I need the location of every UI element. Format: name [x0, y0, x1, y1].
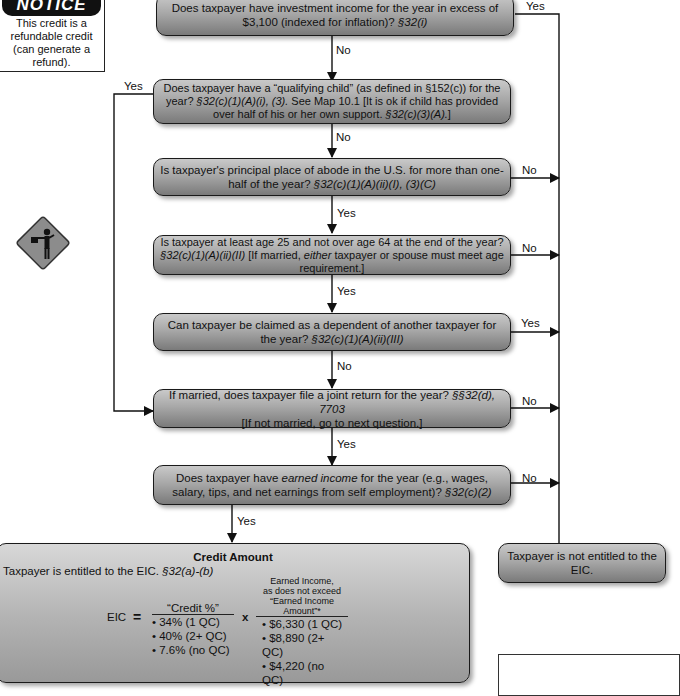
q2-no-label: No — [336, 131, 351, 143]
credit-percent-item: • 34% (1 QC) — [152, 615, 234, 629]
credit-amount-citation: §32(a)-(b) — [162, 565, 213, 577]
question-earned-income: Does taxpayer have earned income for the… — [153, 465, 511, 505]
empty-box — [498, 654, 680, 696]
notice-heading: NOTICE — [2, 0, 101, 16]
question-text: Is taxpayer at least age 25 and not over… — [160, 236, 503, 248]
emphasis: either — [304, 249, 332, 261]
earned-amount-item: • $4,220 (no QC) — [256, 659, 348, 687]
credit-percent-item: • 40% (2+ QC) — [152, 629, 234, 643]
earned-amount-item: • $6,330 (1 QC) — [256, 617, 348, 631]
q4-yes-label: Yes — [337, 285, 356, 297]
q5-no-label: No — [337, 360, 352, 372]
question-age-requirement: Is taxpayer at least age 25 and not over… — [153, 235, 511, 275]
flagger-warning-sign-icon — [14, 214, 72, 272]
question-qualifying-child: Does taxpayer have a “qualifying child” … — [153, 79, 511, 124]
notice-text: This credit is a refundable credit (can … — [0, 17, 104, 69]
citation: §32(c)(1)(A)(ii)(I), (3)(C) — [314, 178, 436, 190]
q7-yes-label: Yes — [237, 515, 256, 527]
q3-no-label: No — [522, 164, 537, 176]
citation: §32(i) — [398, 16, 427, 28]
question-dependent: Can taxpayer be claimed as a dependent o… — [153, 313, 511, 351]
question-text: Does taxpayer have — [176, 472, 278, 484]
q4-no-label: No — [522, 242, 537, 254]
credit-amount-subtitle: Taxpayer is entitled to the EIC. — [3, 565, 159, 577]
earned-amount-item: • $8,890 (2+ QC) — [256, 631, 348, 659]
question-text: If married, does taxpayer file a joint r… — [169, 389, 449, 401]
result-credit-amount: Credit Amount Taxpayer is entitled to th… — [0, 543, 470, 683]
q2-yes-label: Yes — [124, 80, 143, 92]
bracket-close: ] — [448, 108, 451, 120]
result-not-entitled: Taxpayer is not entitled to the EIC. — [498, 543, 666, 583]
q1-yes-label: Yes — [526, 0, 545, 12]
formula-equals: = — [133, 609, 141, 625]
question-investment-income: Does taxpayer have investment income for… — [156, 0, 514, 36]
citation: §32(c)(1)(A)(ii)(III) — [312, 333, 404, 345]
question-note: [If not married, go to next question.] — [242, 417, 423, 429]
notice-box: NOTICE This credit is a refundable credi… — [0, 0, 105, 72]
earned-header-line3: “Earned Income Amount”* — [256, 596, 348, 617]
q5-yes-label: Yes — [521, 317, 540, 329]
earned-income-column: Earned Income, as does not exceed “Earne… — [256, 576, 348, 687]
credit-percent-column: “Credit %” • 34% (1 QC) • 40% (2+ QC) • … — [152, 602, 234, 657]
result-text: Taxpayer is not entitled to the EIC. — [505, 549, 659, 577]
q7-no-label: No — [522, 472, 537, 484]
credit-amount-title: Credit Amount — [0, 551, 469, 563]
citation: §32(c)(2) — [445, 486, 492, 498]
formula-lhs: EIC — [107, 611, 126, 623]
question-joint-return: If married, does taxpayer file a joint r… — [153, 389, 511, 428]
q6-no-label: No — [522, 395, 537, 407]
emphasis: earned income — [282, 472, 358, 484]
citation: §32(c)(3)(A). — [386, 108, 448, 120]
citation: §32(c)(1)(A)(i), (3). — [197, 95, 289, 107]
credit-percent-header: “Credit %” — [152, 602, 234, 615]
connector-q2-yes — [114, 94, 153, 411]
formula-times: x — [242, 611, 248, 623]
earned-header-line2: as does not exceed — [256, 586, 348, 596]
question-principal-abode: Is taxpayer's principal place of abode i… — [153, 158, 511, 196]
question-note: taxpayer or spouse must meet age require… — [300, 249, 504, 274]
question-note: [If married, — [248, 249, 301, 261]
earned-header-line1: Earned Income, — [256, 576, 348, 586]
q1-no-label: No — [336, 44, 351, 56]
citation: §32(c)(1)(A)(ii)(II) — [160, 249, 245, 261]
question-text: Does taxpayer have investment income for… — [172, 2, 499, 28]
q3-yes-label: Yes — [337, 207, 356, 219]
q6-yes-label: Yes — [337, 438, 356, 450]
credit-percent-item: • 7.6% (no QC) — [152, 643, 234, 657]
